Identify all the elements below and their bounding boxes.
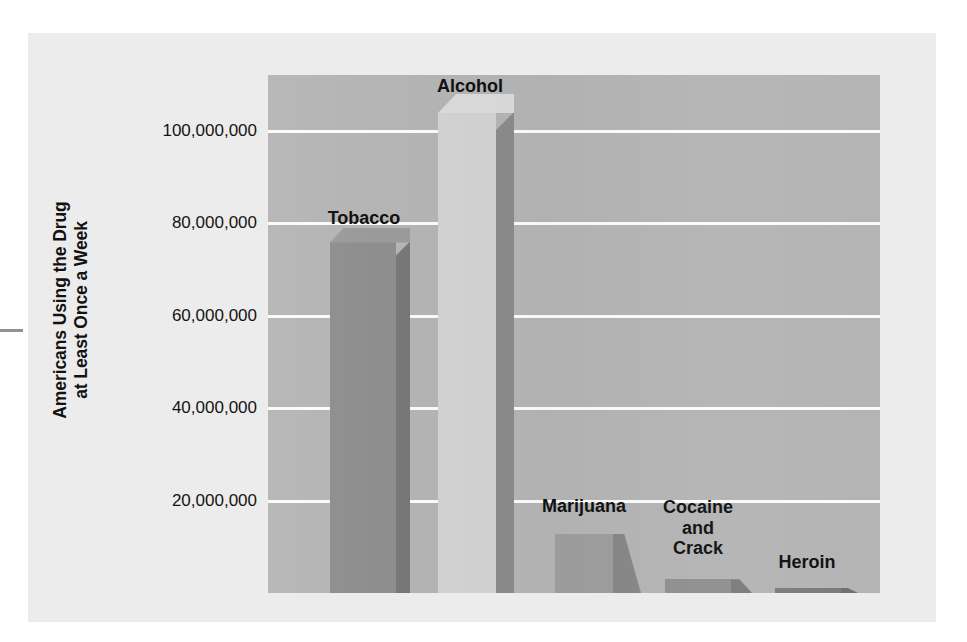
plot-area: TobaccoAlcoholMarijuanaCocaine and Crack… (268, 75, 880, 593)
y-axis-title: Americans Using the Drug at Least Once a… (48, 160, 94, 460)
bar-alcohol (438, 112, 496, 593)
y-axis-tick-labels: 100,000,00080,000,00060,000,00040,000,00… (105, 0, 257, 642)
bar-top-cap (438, 94, 514, 113)
bar-cocaine-and-crack (665, 579, 731, 593)
y-axis-tick-label: 80,000,000 (107, 213, 257, 233)
bar-label-cocaine-and-crack: Cocaine and Crack (646, 497, 750, 559)
bar-front-face (330, 242, 396, 594)
bar-label-marijuana: Marijuana (521, 496, 647, 517)
y-axis-tick-label: 20,000,000 (107, 491, 257, 511)
bar-label-tobacco: Tobacco (308, 208, 420, 229)
y-axis-title-line1: Americans Using the Drug (50, 201, 70, 418)
bar-top-cap (330, 228, 410, 243)
page-margin-rule (0, 329, 23, 332)
gridline (268, 130, 880, 133)
y-axis-tick-label: 40,000,000 (107, 398, 257, 418)
bar-front-face (438, 112, 496, 593)
y-axis-tick-label: 60,000,000 (107, 306, 257, 326)
bar-side-face (396, 242, 410, 594)
bar-side-face (731, 579, 752, 593)
bar-side-face (613, 534, 641, 593)
bar-label-alcohol: Alcohol (414, 76, 526, 97)
bar-front-face (665, 579, 731, 593)
bar-label-heroin: Heroin (755, 552, 859, 573)
bar-marijuana (555, 534, 613, 593)
bar-front-face (555, 534, 613, 593)
bar-side-face (841, 588, 858, 593)
scanned-page: Americans Using the Drug at Least Once a… (0, 0, 967, 642)
y-axis-tick-label: 100,000,000 (107, 121, 257, 141)
bar-heroin (775, 588, 841, 593)
bar-side-face (496, 112, 514, 593)
y-axis-title-line2: at Least Once a Week (71, 221, 91, 399)
bar-front-face (775, 588, 841, 593)
bar-tobacco (330, 242, 396, 594)
